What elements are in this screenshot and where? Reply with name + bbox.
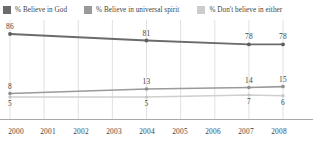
x-tick-2004: 2004 — [139, 127, 155, 137]
legend-item-dont-believe: % Don't believe in either — [197, 0, 282, 20]
data-label-god-2008: 78 — [279, 32, 287, 41]
legend-item-believe-god: % Believe in God — [3, 0, 67, 20]
data-label-god-2004: 81 — [143, 29, 151, 38]
data-label-god-2000: 86 — [6, 22, 14, 31]
x-tick-2001: 2001 — [40, 127, 56, 137]
data-label-neither-2000: 5 — [8, 99, 12, 108]
x-tick-2000: 2000 — [8, 127, 24, 137]
legend-swatch-universal-spirit — [84, 6, 92, 14]
legend-item-universal-spirit: % Believe in universal spirit — [84, 0, 179, 20]
chart-legend: % Believe in God % Believe in universal … — [0, 0, 313, 20]
plot-area: 86 81 78 78 8 13 14 15 5 5 7 6 — [0, 20, 313, 124]
data-label-god-2007: 78 — [245, 32, 253, 41]
data-label-neither-2008: 6 — [281, 98, 285, 107]
x-axis-labels: 2000 2001 2002 2003 2004 2005 2006 2007 … — [0, 124, 313, 144]
legend-label-universal-spirit: % Believe in universal spirit — [96, 6, 179, 14]
data-label-neither-2004: 5 — [145, 99, 149, 108]
x-tick-2006: 2006 — [205, 127, 221, 137]
legend-swatch-dont-believe — [197, 6, 205, 14]
data-label-spirit-2007: 14 — [245, 76, 253, 85]
legend-label-dont-believe: % Don't believe in either — [209, 6, 282, 14]
x-tick-2008: 2008 — [271, 127, 287, 137]
x-tick-2005: 2005 — [172, 127, 188, 137]
x-tick-2007: 2007 — [238, 127, 254, 137]
x-tick-2003: 2003 — [106, 127, 122, 137]
data-label-neither-2007: 7 — [247, 97, 251, 106]
legend-swatch-believe-god — [3, 6, 11, 14]
x-tick-2002: 2002 — [73, 127, 89, 137]
legend-label-believe-god: % Believe in God — [15, 6, 67, 14]
data-label-spirit-2004: 13 — [143, 77, 151, 86]
chart-container: % Believe in God % Believe in universal … — [0, 0, 313, 144]
data-label-spirit-2000: 8 — [8, 82, 12, 91]
data-label-spirit-2008: 15 — [279, 75, 287, 84]
